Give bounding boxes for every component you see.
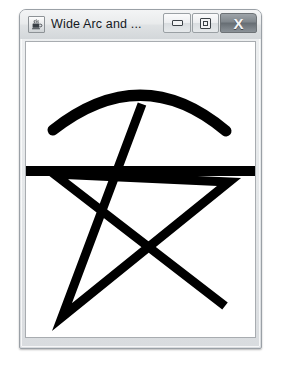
close-icon: X (233, 16, 243, 31)
maximize-icon (200, 18, 211, 29)
java-coffee-cup-icon (28, 16, 45, 33)
title-bar[interactable]: Wide Arc and ... X (20, 10, 261, 39)
application-window: Wide Arc and ... X (19, 9, 262, 349)
minimize-icon (172, 20, 183, 26)
screen: Wide Arc and ... X (0, 0, 282, 376)
drawing-canvas (25, 41, 256, 338)
maximize-restore-button[interactable] (192, 13, 219, 33)
graphics-surface (26, 42, 255, 337)
maximize-icon-inner (203, 21, 208, 26)
minimize-button[interactable] (163, 13, 191, 33)
close-button[interactable]: X (220, 13, 257, 33)
window-title: Wide Arc and ... (51, 15, 142, 34)
